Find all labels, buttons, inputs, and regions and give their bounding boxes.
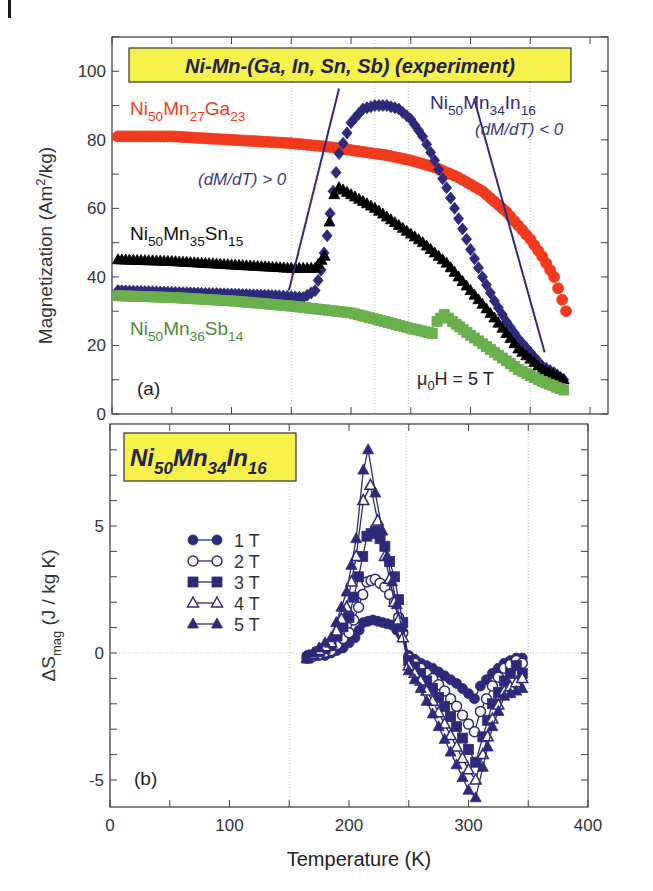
- data-point: [482, 741, 493, 751]
- legend-item: 1 T: [188, 531, 260, 551]
- data-point: [452, 701, 462, 711]
- data-point: [549, 271, 560, 282]
- y-tick-label: 80: [87, 131, 106, 150]
- chart-title: Ni-Mn-(Ga, In, Sn, Sb) (experiment): [185, 55, 515, 77]
- data-point: [458, 710, 468, 720]
- y-tick-label: 0: [97, 405, 106, 424]
- data-point: [354, 602, 364, 612]
- data-point: [354, 572, 364, 582]
- data-point: [446, 192, 456, 204]
- legend-marker-icon: [188, 618, 199, 628]
- legend-marker-icon: [188, 556, 198, 566]
- data-point: [553, 283, 564, 294]
- data-point: [464, 745, 474, 755]
- x-tick-label: 400: [574, 816, 602, 835]
- legend-label: 1 T: [234, 531, 260, 551]
- data-point: [557, 294, 568, 305]
- data-point: [469, 694, 479, 704]
- data-point: [454, 213, 464, 225]
- y-tick-label: 100: [78, 62, 106, 81]
- legend-item: 4 T: [188, 594, 260, 614]
- legend-label: 4 T: [234, 594, 260, 614]
- legend-marker-icon: [212, 597, 223, 607]
- legend-marker-icon: [212, 618, 223, 628]
- data-point: [462, 233, 472, 245]
- label-text: Ni50Mn36Sb14: [130, 318, 244, 344]
- label-text: Ni50Mn27Ga23: [130, 98, 245, 124]
- slope-annotation: (dM/dT) > 0: [198, 170, 287, 189]
- y-tick-label: 60: [87, 199, 106, 218]
- panel-b-entropy-change: -5050100200300400Temperature (K)ΔSmag (J…: [38, 424, 602, 870]
- panel-label: (a): [137, 378, 160, 399]
- plot-area: [302, 444, 528, 802]
- data-point: [452, 722, 462, 732]
- data-point: [358, 590, 368, 600]
- series-4T: [302, 479, 528, 784]
- panel-label: (b): [134, 768, 157, 789]
- legend-marker-icon: [212, 535, 222, 545]
- legend-label: 3 T: [234, 573, 260, 593]
- data-point: [446, 712, 456, 722]
- data-point: [427, 328, 437, 338]
- x-tick-label: 300: [454, 816, 482, 835]
- data-point: [458, 223, 468, 235]
- y-axis-label: ΔSmag (J / kg K): [38, 550, 64, 682]
- legend-item: 2 T: [188, 552, 260, 572]
- figure: 020406080100Magnetization (Am2/kg)Ni-Mn-…: [0, 0, 653, 891]
- x-tick-label: 0: [105, 816, 114, 835]
- legend-item: 3 T: [188, 573, 260, 593]
- data-point: [351, 533, 362, 543]
- data-point: [458, 733, 468, 743]
- field-annotation: μ0H = 5 T: [417, 369, 494, 393]
- series-5T: [302, 444, 528, 802]
- legend-marker-icon: [188, 535, 198, 545]
- x-axis-label: Temperature (K): [287, 848, 432, 870]
- data-point: [450, 202, 460, 214]
- y-axis-label: Magnetization (Am2/kg): [33, 147, 56, 344]
- panel-a-magnetization: 020406080100Magnetization (Am2/kg)Ni-Mn-…: [33, 37, 608, 424]
- data-point: [559, 385, 569, 395]
- x-tick-label: 100: [215, 816, 243, 835]
- y-tick-label: 40: [87, 268, 106, 287]
- data-point: [322, 230, 332, 242]
- data-point: [561, 306, 572, 317]
- data-point: [358, 464, 369, 474]
- data-point: [324, 216, 335, 226]
- x-tick-label: 200: [335, 816, 363, 835]
- legend-marker-icon: [188, 597, 199, 607]
- legend-marker-icon: [212, 556, 222, 566]
- label-text: Ni50Mn34In16: [430, 92, 536, 118]
- slope-annotation: (dM/dT) < 0: [475, 120, 564, 139]
- label-text: Ni50Mn35Sn15: [130, 223, 244, 249]
- data-point: [331, 166, 341, 178]
- legend-item: 5 T: [188, 615, 260, 635]
- legend: 1 T2 T3 T4 T5 T: [188, 531, 260, 635]
- data-point: [313, 274, 323, 286]
- data-point: [342, 127, 352, 139]
- data-point: [463, 784, 474, 794]
- y-tick-label: 5: [95, 517, 104, 536]
- legend-marker-icon: [212, 577, 222, 587]
- legend-label: 5 T: [234, 615, 260, 635]
- y-tick-label: -5: [89, 771, 104, 790]
- legend-label: 2 T: [234, 552, 260, 572]
- y-tick-label: 20: [87, 336, 106, 355]
- data-point: [363, 444, 374, 454]
- legend-marker-icon: [188, 577, 198, 587]
- y-tick-label: 0: [95, 644, 104, 663]
